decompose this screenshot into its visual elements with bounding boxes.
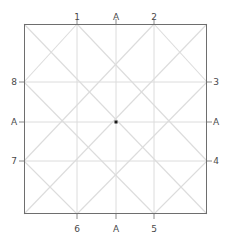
edge-label-bottom-1: A	[113, 224, 120, 234]
edge-label-right-2: 4	[213, 156, 219, 166]
center-point	[115, 121, 118, 124]
edge-label-top-2: 2	[151, 12, 157, 22]
diagram-stage: 1A26A58A73A4	[0, 0, 229, 239]
edge-label-bottom-0: 6	[74, 224, 80, 234]
edge-label-top-0: 1	[74, 12, 80, 22]
edge-label-left-2: 7	[11, 156, 17, 166]
edge-label-bottom-2: 5	[151, 224, 157, 234]
edge-label-top-1: A	[113, 12, 120, 22]
edge-label-left-1: A	[11, 117, 18, 127]
edge-label-right-1: A	[213, 117, 220, 127]
center-point-marker	[115, 121, 118, 124]
edge-label-left-0: 8	[11, 77, 17, 87]
geometric-diagram: 1A26A58A73A4	[0, 0, 229, 239]
edge-label-right-0: 3	[213, 77, 219, 87]
